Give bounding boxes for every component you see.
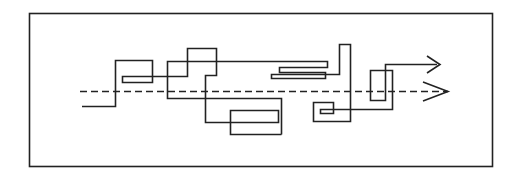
background	[0, 0, 516, 178]
diagram-svg	[0, 0, 516, 178]
diagram-canvas	[0, 0, 516, 178]
